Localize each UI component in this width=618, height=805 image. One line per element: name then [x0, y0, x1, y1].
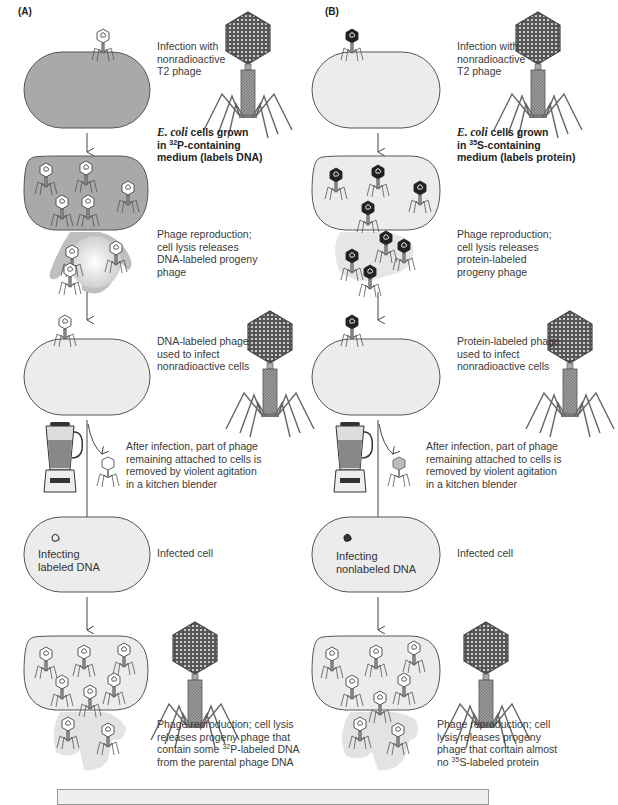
panel-b-infecting-dna-label: Infecting nonlabeled DNA	[336, 550, 416, 576]
panel-b-growth-text: E. coli cells grown in 35S-containing me…	[457, 126, 575, 164]
curved-arrow-icon	[379, 424, 393, 454]
panel-b-infected-cell-label: Infected cell	[457, 547, 513, 560]
conclusion-box	[57, 789, 489, 805]
panel-b-reproduction-text: Phage reproduction; cell lysis releases …	[457, 228, 552, 278]
panel-b-blender-text: After infection, part of phage remaining…	[426, 440, 561, 490]
panel-b-labeled-phage-text: Protein-labeled phage used to infect non…	[457, 335, 560, 373]
panel-b-final-text: Phage reproduction; cell lysis releases …	[437, 718, 557, 768]
bacterial-cell-icon	[312, 52, 440, 128]
panel-b-infection-text: Infection with nonradioactive T2 phage	[457, 40, 525, 78]
dna-icon	[344, 534, 351, 541]
phage-ghost-icon	[388, 457, 410, 487]
blender-icon	[334, 422, 372, 492]
t2-phage-icon	[526, 311, 614, 437]
bacterial-cell-icon	[312, 339, 440, 415]
